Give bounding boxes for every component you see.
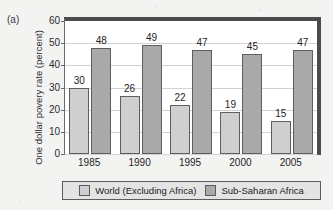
bar-value-label: 48 xyxy=(86,35,116,46)
x-tick-label: 1990 xyxy=(115,157,165,168)
gridline xyxy=(65,154,317,155)
bar xyxy=(69,88,89,155)
figure-panel: (a) One dollar povery rate (percent) 304… xyxy=(0,0,333,210)
bar xyxy=(91,48,111,154)
legend-swatch-sub-saharan-africa xyxy=(205,185,216,196)
legend-item-sub-saharan-africa[interactable]: Sub-Saharan Africa xyxy=(205,185,303,196)
plot-area: 30482649224719451547 xyxy=(65,21,317,154)
legend-label-world: World (Excluding Africa) xyxy=(95,185,196,196)
x-tick-label: 2005 xyxy=(266,157,316,168)
bar xyxy=(192,50,212,154)
bar-value-label: 30 xyxy=(64,75,94,86)
bar xyxy=(120,96,140,154)
bar-value-label: 47 xyxy=(288,37,318,48)
bar-value-label: 47 xyxy=(187,37,217,48)
bar xyxy=(293,50,313,154)
y-axis-title: One dollar povery rate (percent) xyxy=(33,19,44,177)
panel-letter: (a) xyxy=(7,14,19,25)
bar-value-label: 15 xyxy=(266,108,296,119)
x-tick-label: 1985 xyxy=(64,157,114,168)
bar-value-label: 26 xyxy=(115,83,145,94)
bar xyxy=(271,121,291,154)
legend-item-world[interactable]: World (Excluding Africa) xyxy=(79,185,196,196)
bar-value-label: 22 xyxy=(165,92,195,103)
bar-value-label: 19 xyxy=(215,99,245,110)
legend-label-sub-saharan-africa: Sub-Saharan Africa xyxy=(221,185,303,196)
bar-value-label: 49 xyxy=(137,32,167,43)
bar xyxy=(142,45,162,154)
bar xyxy=(220,112,240,154)
bar xyxy=(170,105,190,154)
x-tick-label: 1995 xyxy=(165,157,215,168)
plot-frame: 30482649224719451547 0102030405060 xyxy=(64,17,321,155)
bar xyxy=(242,54,262,154)
legend-swatch-world xyxy=(79,185,90,196)
chart-legend: World (Excluding Africa) Sub-Saharan Afr… xyxy=(62,181,321,200)
bar-value-label: 45 xyxy=(237,41,267,52)
x-tick-label: 2000 xyxy=(215,157,265,168)
